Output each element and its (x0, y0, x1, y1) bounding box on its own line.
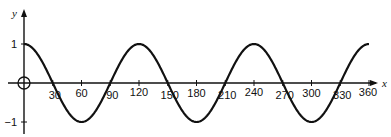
x-axis-label: x (381, 77, 387, 89)
x-tick-label: 360 (359, 86, 377, 98)
y-axis-label: y (11, 7, 17, 19)
x-tick-label: 240 (245, 86, 263, 98)
y-tick-label: 1 (11, 38, 17, 50)
cosine-chart: x y 3060901201501802102402703003303601−1 (0, 0, 391, 137)
x-tick-label: 300 (302, 87, 320, 99)
x-tick-label: 90 (106, 89, 118, 101)
x-tick-label: 120 (130, 86, 148, 98)
y-tick-label: −1 (4, 116, 17, 128)
x-tick-label: 60 (75, 87, 87, 99)
x-tick-label: 180 (187, 87, 205, 99)
y-axis-arrow-icon (21, 9, 27, 17)
